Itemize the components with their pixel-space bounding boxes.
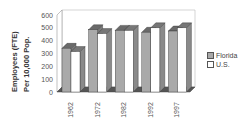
y-tick-label: 600 [41, 12, 53, 19]
legend-swatch-us [207, 61, 214, 68]
legend-label-florida: Florida [216, 52, 237, 59]
bar-us-1982 [124, 25, 138, 92]
bar-us-1992 [151, 23, 165, 92]
bar-us-1962 [71, 47, 85, 92]
y-tick-label: 200 [41, 63, 53, 70]
y-tick-label: 100 [41, 76, 53, 83]
y-tick-label: 400 [41, 37, 53, 44]
y-tick-label: 0 [49, 89, 53, 96]
x-tick-label: 1962 [67, 102, 74, 118]
x-tick-label: 1997 [173, 102, 180, 118]
y-tick-label: 300 [41, 50, 53, 57]
bar-chart: Employees (FTE) Per 10,000 Pop. 01002003… [0, 0, 245, 119]
legend-swatch-florida [207, 52, 214, 59]
x-tick-label: 1972 [94, 102, 101, 118]
legend-label-us: U.S. [216, 61, 230, 68]
x-tick-label: 1992 [147, 102, 154, 118]
bar-us-1997 [177, 23, 191, 92]
legend: Florida U.S. [207, 51, 237, 69]
bar-us-1972 [98, 29, 112, 92]
legend-item-us: U.S. [207, 60, 237, 69]
x-tick-label: 1982 [120, 102, 127, 118]
legend-item-florida: Florida [207, 51, 237, 60]
y-tick-label: 500 [41, 24, 53, 31]
side-wall [57, 10, 62, 92]
